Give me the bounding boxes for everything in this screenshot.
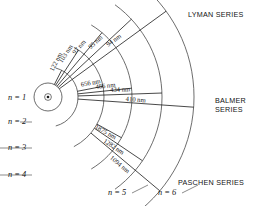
bohr-model-diagram: n = 1n = 2n = 3n = 4n = 5n = 6 122 nm103… bbox=[0, 0, 253, 206]
wavelength-label-balmer-4: 410 nm bbox=[125, 95, 145, 103]
shell-label-n6: n = 6 bbox=[158, 188, 176, 197]
series-label-line: PASCHEN SERIES bbox=[178, 178, 244, 187]
shell-leader-n5 bbox=[132, 185, 148, 193]
shell-label-n3: n = 3 bbox=[8, 143, 26, 152]
series-label-lyman: LYMAN SERIES bbox=[188, 10, 244, 19]
shell-arc-group bbox=[0, 0, 198, 206]
transition-line-balmer-3 bbox=[78, 93, 162, 96]
shell-label-n4: n = 4 bbox=[8, 170, 26, 179]
series-label-line: SERIES bbox=[215, 105, 246, 114]
series-label-paschen: PASCHEN SERIES bbox=[178, 178, 244, 187]
series-label-balmer: BALMERSERIES bbox=[215, 96, 246, 114]
series-label-line: LYMAN SERIES bbox=[188, 10, 244, 19]
shell-label-n5: n = 5 bbox=[108, 188, 126, 197]
wavelength-label-balmer-3: 434 nm bbox=[110, 86, 130, 94]
shell-arc-n2 bbox=[56, 68, 78, 126]
shell-label-n2: n = 2 bbox=[8, 117, 26, 126]
nucleus-dot bbox=[47, 96, 50, 99]
shell-label-n1: n = 1 bbox=[8, 93, 26, 102]
series-label-line: BALMER bbox=[215, 96, 246, 105]
nucleus bbox=[45, 94, 52, 101]
